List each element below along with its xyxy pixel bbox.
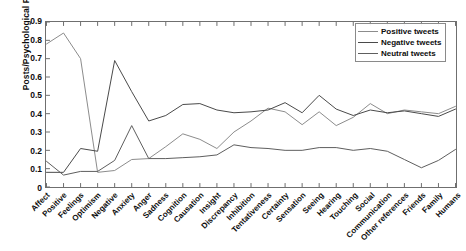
- legend-item[interactable]: Neutral tweets: [358, 48, 441, 59]
- y-axis-tick-labels: 00.10.20.30.40.50.60.70.80.9: [0, 0, 44, 251]
- legend-item-label: Positive tweets: [381, 26, 439, 37]
- series-line-1: [46, 61, 455, 173]
- y-tick-label: 0: [37, 183, 42, 193]
- y-tick-label: 0.2: [30, 146, 42, 156]
- chart-figure: Posts/Psychological Processes 00.10.20.3…: [0, 0, 466, 251]
- legend-line-swatch-icon: [358, 31, 378, 32]
- y-tick-label: 0.7: [30, 53, 42, 63]
- y-tick-label: 0.3: [30, 127, 42, 137]
- y-tick-label: 0.5: [30, 90, 42, 100]
- legend-line-swatch-icon: [358, 53, 378, 54]
- y-tick-label: 0.8: [30, 35, 42, 45]
- y-tick-label: 0.9: [30, 16, 42, 26]
- chart-legend: Positive tweetsNegative tweetsNeutral tw…: [355, 23, 446, 62]
- series-line-2: [46, 126, 455, 175]
- legend-item-label: Neutral tweets: [381, 48, 436, 59]
- y-tick-label: 0.4: [30, 109, 42, 119]
- legend-item[interactable]: Negative tweets: [358, 37, 441, 48]
- legend-item[interactable]: Positive tweets: [358, 26, 441, 37]
- legend-item-label: Negative tweets: [381, 37, 441, 48]
- y-tick-label: 0.1: [30, 164, 42, 174]
- x-axis-tick-labels: AffectPositiveFeelingsOptimismNegativeAn…: [45, 190, 457, 251]
- y-tick-label: 0.6: [30, 72, 42, 82]
- legend-line-swatch-icon: [358, 42, 378, 43]
